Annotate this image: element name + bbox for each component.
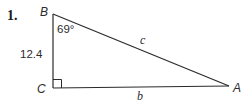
vertex-label-b: B [40,5,48,19]
hypotenuse-line [53,14,229,86]
triangle-diagram: 1. B C A 69° 12.4 c b [0,0,244,103]
triangle-figure: 1. B C A 69° 12.4 c b [0,0,244,103]
vertex-label-a: A [232,81,241,95]
problem-number: 1. [7,8,18,23]
vertex-label-c: C [37,82,46,96]
side-cb-base-line [53,86,229,88]
base-label: b [137,89,143,103]
angle-b-value: 69° [57,23,74,35]
hypotenuse-label: c [140,33,146,47]
side-bc-length: 12.4 [20,48,43,60]
right-angle-marker [53,80,62,89]
